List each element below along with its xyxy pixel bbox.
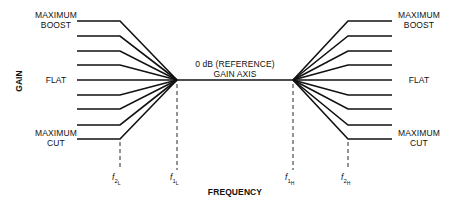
right-max-cut-label: MAXIMUM CUT xyxy=(391,128,447,148)
label-line: GAIN AXIS xyxy=(185,69,285,79)
left-max-boost-label: MAXIMUM BOOST xyxy=(28,10,84,30)
marker-sub: H xyxy=(347,180,351,186)
right-shelf-curves xyxy=(293,21,392,139)
label-line: CUT xyxy=(28,138,84,148)
left-flat-label: FLAT xyxy=(36,75,76,85)
marker-sub: L xyxy=(118,180,121,186)
marker-f2L: f2L xyxy=(112,172,121,186)
label-line: MAXIMUM xyxy=(28,128,84,138)
marker-f1L: f1L xyxy=(170,172,179,186)
label-line: MAXIMUM xyxy=(391,128,447,138)
label-line: BOOST xyxy=(391,20,447,30)
marker-f2H: f2H xyxy=(341,172,350,186)
left-max-cut-label: MAXIMUM CUT xyxy=(28,128,84,148)
marker-sub: L xyxy=(176,180,179,186)
label-line: MAXIMUM xyxy=(28,10,84,20)
label-line: CUT xyxy=(391,138,447,148)
marker-sub: H xyxy=(291,180,295,186)
gain-axis-label: GAIN xyxy=(14,66,24,96)
right-flat-label: FLAT xyxy=(399,75,439,85)
frequency-axis-label: FREQUENCY xyxy=(195,187,275,197)
label-line: BOOST xyxy=(28,20,84,30)
reference-axis-label: 0 dB (REFERENCE) GAIN AXIS xyxy=(185,59,285,79)
label-line: MAXIMUM xyxy=(391,10,447,20)
eq-response-diagram xyxy=(0,0,456,209)
label-line: 0 dB (REFERENCE) xyxy=(185,59,285,69)
right-max-boost-label: MAXIMUM BOOST xyxy=(391,10,447,30)
left-shelf-curves xyxy=(77,21,177,139)
marker-f1H: f1H xyxy=(285,172,294,186)
